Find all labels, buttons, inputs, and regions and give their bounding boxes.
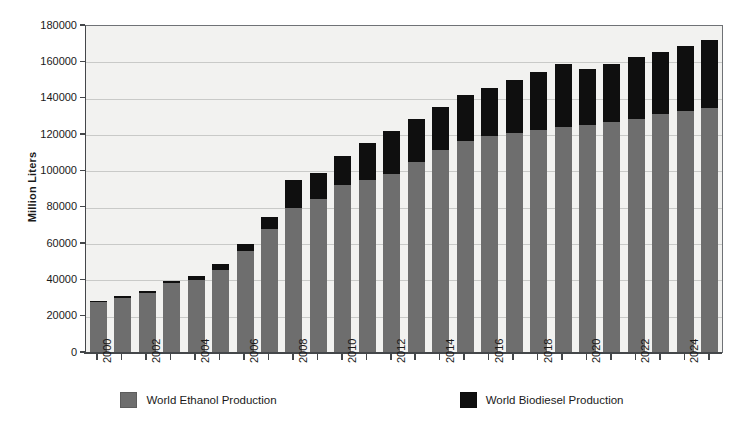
gridline [86,62,722,63]
bar-segment-ethanol [628,119,645,353]
bar-segment-biodiesel [457,95,474,141]
legend-label-biodiesel: World Biodiesel Production [486,394,624,406]
x-tick-mark [268,354,270,360]
bar-segment-ethanol [677,111,694,353]
bar-2023 [652,52,669,353]
bar-segment-biodiesel [701,40,718,108]
bar-2015 [457,95,474,353]
x-tick-label-2002: 2002 [151,339,162,363]
bar-2003 [163,281,180,353]
x-tick-label-2022: 2022 [640,339,651,363]
bar-2020 [579,69,596,353]
y-tick-label: 100000 [7,165,77,176]
x-tick-mark [292,354,294,360]
bar-segment-ethanol [163,283,180,353]
bar-2010 [334,156,351,353]
x-tick-mark [512,354,514,360]
bar-2018 [530,72,547,353]
bar-2017 [506,80,523,353]
bar-segment-biodiesel [212,264,229,270]
gridline [86,280,722,281]
x-tick-mark [537,354,539,360]
bar-2011 [359,143,376,353]
bar-segment-biodiesel [677,46,694,111]
bar-2005 [212,264,229,353]
gridline [86,244,722,245]
y-tick-label: 140000 [7,92,77,103]
x-tick-label-2010: 2010 [347,339,358,363]
bar-segment-biodiesel [139,291,156,293]
bar-segment-ethanol [603,122,620,353]
bar-segment-biodiesel [90,301,107,303]
bar-segment-ethanol [285,208,302,353]
plot-inner [86,26,722,353]
x-tick-mark [194,354,196,360]
y-tick-label: 120000 [7,129,77,140]
y-tick-label: 80000 [7,201,77,212]
bar-2021 [603,64,620,353]
y-tick-label: 0 [7,347,77,358]
bar-segment-ethanol [114,298,131,353]
bar-segment-ethanol [359,180,376,353]
x-tick-label-2008: 2008 [298,339,309,363]
bar-segment-biodiesel [506,80,523,134]
bar-segment-ethanol [334,185,351,353]
x-tick-mark [463,354,465,360]
bar-segment-ethanol [432,150,449,353]
x-tick-label-2024: 2024 [689,339,700,363]
x-tick-mark [684,354,686,360]
y-tick-label: 20000 [7,310,77,321]
bar-2013 [408,119,425,353]
x-tick-mark [635,354,637,360]
bar-segment-ethanol [701,108,718,353]
x-tick-mark [708,354,710,360]
x-tick-label-2012: 2012 [396,339,407,363]
x-tick-mark [317,354,319,360]
bar-segment-ethanol [408,162,425,353]
bar-2001 [114,296,131,353]
bar-segment-ethanol [555,127,572,353]
x-tick-mark [414,354,416,360]
x-tick-mark [145,354,147,360]
bar-2016 [481,88,498,353]
bar-segment-biodiesel [188,276,205,280]
bar-segment-biodiesel [334,156,351,185]
bar-segment-biodiesel [555,64,572,127]
legend-swatch-biodiesel-icon [460,392,477,408]
y-tick-label: 40000 [7,274,77,285]
x-tick-mark [219,354,221,360]
bar-2025 [701,40,718,353]
bar-2009 [310,173,327,353]
bar-segment-ethanol [652,114,669,353]
bar-segment-biodiesel [432,107,449,151]
bar-segment-biodiesel [628,57,645,119]
legend-swatch-ethanol-icon [120,392,137,408]
bar-segment-ethanol [506,133,523,353]
legend-item-biodiesel: World Biodiesel Production [460,392,624,408]
bar-segment-biodiesel [579,69,596,125]
x-tick-mark [121,354,123,360]
x-tick-label-2014: 2014 [445,339,456,363]
bar-segment-biodiesel [652,52,669,114]
x-tick-label-2000: 2000 [102,339,113,363]
bar-2024 [677,46,694,353]
y-tick-label: 60000 [7,238,77,249]
bar-segment-ethanol [383,174,400,353]
plot-area [85,25,723,353]
bar-segment-biodiesel [481,88,498,136]
bar-2008 [285,180,302,353]
bar-segment-ethanol [579,125,596,353]
bar-segment-biodiesel [261,217,278,229]
chart-figure: Million Liters 0200004000060000800001000… [0,0,744,431]
y-tick-label: 180000 [7,20,77,31]
x-tick-label-2004: 2004 [200,339,211,363]
x-tick-mark [439,354,441,360]
bar-segment-ethanol [261,229,278,353]
bar-segment-ethanol [457,141,474,353]
x-tick-mark [561,354,563,360]
chart-legend: World Ethanol Production World Biodiesel… [0,389,744,411]
bar-2006 [237,244,254,353]
x-tick-mark [659,354,661,360]
bar-segment-biodiesel [383,131,400,174]
x-tick-mark [170,354,172,360]
